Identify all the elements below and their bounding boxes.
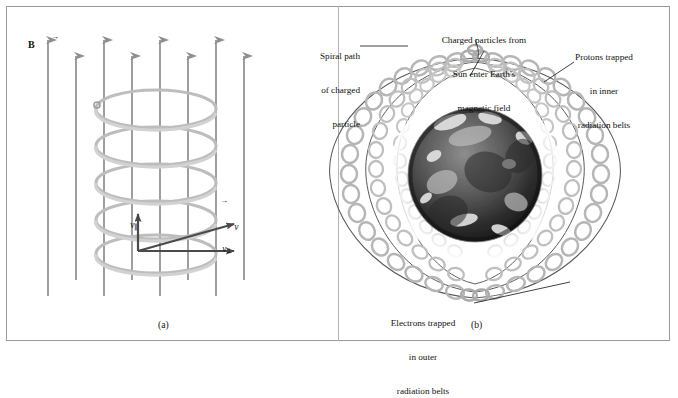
annotation-electrons-line-1: Electrons trapped (371, 318, 475, 329)
velocity-perpendicular-subscript: ⊥ (226, 247, 232, 254)
velocity-parallel-label-group: v∥ (116, 210, 138, 241)
panel-b-caption: (b) (471, 319, 482, 330)
annotation-spiral-path-line-3: particle (286, 119, 360, 130)
annotation-sun-line-1: Charged particles from (422, 35, 546, 46)
annotation-electrons-line-3: radiation belts (371, 386, 475, 397)
velocity-parallel-subscript: ∥ (134, 223, 138, 230)
b-field-label: B (28, 39, 35, 50)
annotation-protons-line-2: in inner (555, 86, 653, 97)
annotation-sun-line-3: magnetic field (422, 103, 546, 114)
annotation-electrons-line-2: in outer (371, 352, 475, 363)
annotation-protons-inner-belts: Protons trapped in inner radiation belts (555, 29, 653, 154)
b-field-vector-arrow: → (51, 35, 59, 39)
annotation-sun-line-2: Sun enter Earth's (422, 69, 546, 80)
velocity-resultant-label: v (234, 222, 238, 232)
panel-b-earth-magnetosphere: Spiral path of charged particle Charged … (338, 6, 670, 341)
annotation-protons-line-1: Protons trapped (555, 52, 653, 63)
annotation-electrons-outer-belts: Electrons trapped in outer radiation bel… (371, 295, 475, 398)
annotation-spiral-path-line-2: of charged (286, 85, 360, 96)
annotation-spiral-path: Spiral path of charged particle (286, 28, 360, 153)
velocity-resultant-arrow: → (220, 199, 228, 203)
annotation-spiral-path-line-1: Spiral path (286, 51, 360, 62)
annotation-charged-particles-from-sun: Charged particles from Sun enter Earth's… (422, 12, 546, 137)
b-field-label-group: → B (28, 39, 35, 50)
annotation-protons-line-3: radiation belts (555, 120, 653, 131)
velocity-perpendicular-label-group: v⊥ (208, 234, 232, 265)
panel-a-caption: (a) (158, 319, 169, 330)
